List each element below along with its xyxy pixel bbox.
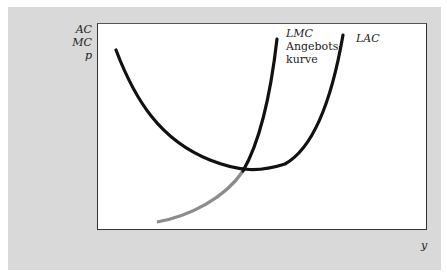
supply-curve-label-line1: Angebots- xyxy=(286,41,342,53)
lmc-curve-lower-segment xyxy=(157,171,243,222)
lac-label: LAC xyxy=(356,33,380,45)
supply-curve-label-line2: kurve xyxy=(286,54,318,66)
lmc-label: LMC xyxy=(286,28,313,40)
x-axis-label-y: y xyxy=(421,240,427,252)
lmc-supply-curve-upper-segment xyxy=(243,39,277,171)
